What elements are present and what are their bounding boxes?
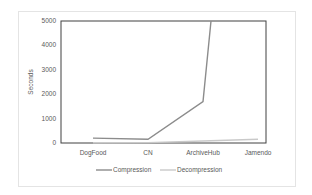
x-axis: DogFood CN ArchiveHub Jamendo <box>80 149 272 157</box>
y-tick: 5000 <box>42 17 57 24</box>
series-decompression <box>93 139 258 143</box>
legend-label-compression: Compression <box>113 166 152 174</box>
y-tick: 3000 <box>42 66 57 73</box>
y-tick: 0 <box>52 139 56 146</box>
y-tick: 4000 <box>42 41 57 48</box>
line-chart: 0 1000 2000 3000 4000 5000 Seconds DogFo… <box>0 0 312 195</box>
legend-label-decompression: Decompression <box>177 166 223 174</box>
x-tick: ArchiveHub <box>186 149 220 156</box>
x-tick: CN <box>143 149 153 156</box>
x-tick: Jamendo <box>245 149 272 156</box>
y-tick: 2000 <box>42 90 57 97</box>
series-compression <box>93 21 211 139</box>
y-axis: 0 1000 2000 3000 4000 5000 Seconds <box>27 17 56 146</box>
legend: Compression Decompression <box>96 166 223 174</box>
x-tick: DogFood <box>80 149 107 157</box>
plot-area <box>61 21 266 143</box>
y-axis-label: Seconds <box>27 69 34 95</box>
y-tick: 1000 <box>42 115 57 122</box>
